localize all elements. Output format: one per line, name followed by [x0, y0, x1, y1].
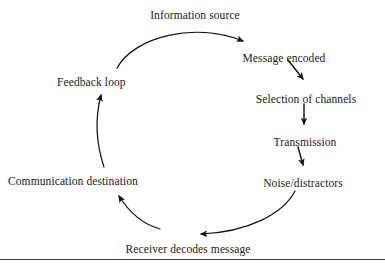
- node-feedback-loop: Feedback loop: [57, 76, 126, 89]
- communication-cycle-figure: Information source Message encoded Selec…: [0, 0, 385, 272]
- arrow-transmission-to-noise-icon: [298, 147, 303, 165]
- node-transmission: Transmission: [274, 136, 337, 149]
- arrow-receiver-to-destination-icon: [119, 196, 160, 229]
- node-selection-of-channels: Selection of channels: [256, 93, 356, 106]
- node-communication-destination: Communication destination: [8, 175, 138, 188]
- bottom-divider: [0, 259, 385, 260]
- node-receiver-decodes-message: Receiver decodes message: [125, 243, 250, 256]
- node-message-encoded: Message encoded: [243, 52, 326, 65]
- arc-feedback-to-source-icon: [117, 32, 243, 68]
- arc-destination-to-feedback-icon: [97, 95, 104, 167]
- arc-noise-to-receiver-icon: [201, 191, 295, 234]
- node-information-source: Information source: [150, 9, 240, 22]
- node-noise-distractors: Noise/distractors: [263, 177, 343, 190]
